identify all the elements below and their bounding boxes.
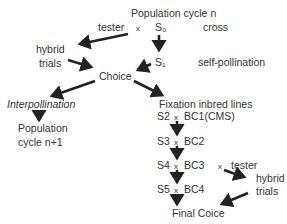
- s0-label: S₀: [155, 21, 166, 33]
- arrow-tester-to-hybrid-right: [224, 170, 244, 177]
- s4-label: S4: [157, 159, 170, 171]
- arrow-s1-to-choice: [138, 64, 151, 70]
- s5-label: S5: [157, 183, 170, 195]
- arrows-layer: [0, 0, 287, 224]
- arrow-tester-to-hybrid: [80, 34, 128, 44]
- cross-symbol-s4: x: [174, 161, 178, 173]
- s1-label: S₁: [155, 56, 166, 68]
- bc3-label: BC3: [184, 159, 204, 171]
- final-choice-label: Final Coice: [172, 207, 225, 219]
- cross-symbol-tester: x: [218, 161, 222, 173]
- arrow-choice-to-fixation: [134, 81, 162, 95]
- cross-label: cross: [203, 21, 228, 33]
- tester-label-bottom: tester: [231, 159, 257, 171]
- bc1-cms-label: BC1(CMS): [184, 110, 235, 122]
- cross-symbol-s3: x: [174, 137, 178, 149]
- cross-symbol-s5: x: [174, 185, 178, 197]
- choice-label: Choice: [99, 70, 132, 82]
- tester-label-top: tester: [98, 21, 124, 33]
- hybrid-trials-right-line1: hybrid: [256, 172, 285, 184]
- interpollination-label: Interpollination: [7, 98, 75, 110]
- bc2-label: BC2: [184, 135, 204, 147]
- hybrid-trials-left-line1: hybrid: [36, 43, 65, 55]
- arrow-hybrid-to-choice: [68, 60, 91, 67]
- cross-symbol-s2: x: [174, 112, 178, 124]
- s3-label: S3: [157, 135, 170, 147]
- self-pollination-label: self-pollination: [198, 56, 265, 68]
- bc4-label: BC4: [184, 183, 204, 195]
- population-n1-line2: cycle n+1: [18, 136, 63, 148]
- hybrid-trials-left-line2: trials: [39, 57, 61, 69]
- arrow-hybrid-to-final: [222, 193, 248, 204]
- arrow-choice-to-interpollination: [52, 81, 95, 96]
- population-cycle-n-label: Population cycle n: [131, 7, 216, 19]
- hybrid-trials-right-line2: trials: [256, 185, 278, 197]
- population-n1-line1: Population: [18, 122, 68, 134]
- fixation-inbred-lines-label: Fixation inbred lines: [159, 98, 252, 110]
- cross-symbol-top: x: [136, 23, 140, 35]
- s2-label: S2: [157, 110, 170, 122]
- breeding-scheme-diagram: Population cycle n tester x S₀ cross hyb…: [0, 0, 287, 224]
